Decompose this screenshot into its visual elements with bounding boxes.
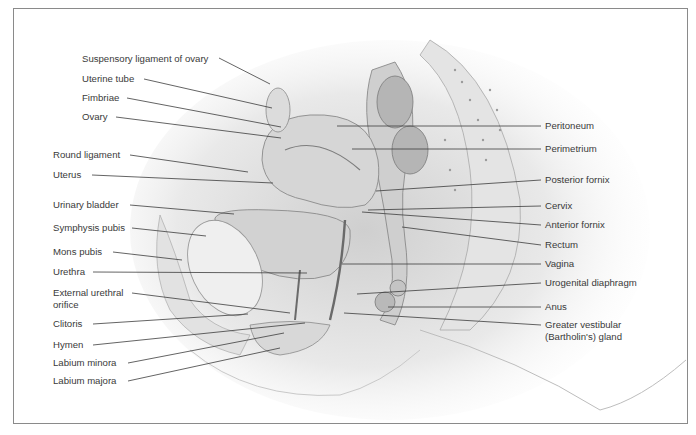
label-vagina: Vagina bbox=[545, 258, 574, 270]
sphincter bbox=[390, 280, 406, 296]
label-anterior-fornix: Anterior fornix bbox=[545, 219, 605, 231]
label-urinary-bladder: Urinary bladder bbox=[53, 199, 119, 211]
label-ovary: Ovary bbox=[82, 111, 108, 123]
label-perimetrium: Perimetrium bbox=[545, 143, 597, 155]
label-labium-minora: Labium minora bbox=[53, 357, 116, 369]
label-anus: Anus bbox=[545, 301, 567, 313]
label-cervix: Cervix bbox=[545, 200, 572, 212]
label-fimbriae: Fimbriae bbox=[82, 92, 119, 104]
label-peritoneum: Peritoneum bbox=[545, 120, 594, 132]
label-suspensory-ligament-of-ovary: Suspensory ligament of ovary bbox=[82, 53, 208, 65]
label-mons-pubis: Mons pubis bbox=[53, 246, 102, 258]
rectal-loop-lower bbox=[392, 126, 428, 174]
label-rectum: Rectum bbox=[545, 239, 578, 251]
label-posterior-fornix: Posterior fornix bbox=[545, 174, 610, 186]
label-uterus: Uterus bbox=[53, 169, 81, 181]
ovary bbox=[266, 88, 290, 132]
label-urethra: Urethra bbox=[53, 266, 85, 278]
label-uterine-tube: Uterine tube bbox=[82, 73, 134, 85]
rectal-loop-upper bbox=[377, 76, 413, 128]
label-clitoris: Clitoris bbox=[53, 318, 82, 330]
label-labium-majora: Labium majora bbox=[53, 375, 116, 387]
label-greater-vestibular-bartholin-s-gland: Greater vestibular(Bartholin's) gland bbox=[545, 319, 685, 343]
label-round-ligament: Round ligament bbox=[53, 149, 120, 161]
label-urogenital-diaphragm: Urogenital diaphragm bbox=[545, 277, 637, 289]
anus bbox=[375, 292, 395, 312]
anatomy-illustration bbox=[0, 0, 696, 435]
label-symphysis-pubis: Symphysis pubis bbox=[53, 222, 125, 234]
label-hymen: Hymen bbox=[53, 339, 83, 351]
label-external-urethral-orifice: External urethralorifice bbox=[53, 287, 193, 311]
